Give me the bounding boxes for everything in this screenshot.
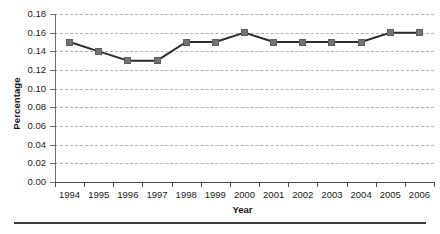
- x-axis-tick: [201, 182, 202, 187]
- y-axis-tick-label: 0.06: [2, 120, 46, 131]
- x-axis-tick-label: 2006: [399, 189, 439, 200]
- y-axis-tick-label: 0.10: [2, 83, 46, 94]
- x-axis-tick: [84, 182, 85, 187]
- x-axis-tick: [142, 182, 143, 187]
- y-axis-tick: [50, 89, 55, 90]
- data-point-marker: [299, 39, 306, 46]
- y-axis-tick-label: 0.08: [2, 101, 46, 112]
- y-axis-tick: [50, 163, 55, 164]
- y-axis-tick-label: 0.16: [2, 27, 46, 38]
- y-axis-tick: [50, 145, 55, 146]
- x-axis-tick: [434, 182, 435, 187]
- x-axis-tick: [405, 182, 406, 187]
- data-point-marker: [212, 39, 219, 46]
- data-point-marker: [270, 39, 277, 46]
- chart-figure: Percentage Year 0.000.020.040.060.080.10…: [0, 0, 440, 234]
- data-point-marker: [154, 57, 161, 64]
- x-axis-tick: [317, 182, 318, 187]
- data-point-marker: [241, 29, 248, 36]
- x-axis-tick: [288, 182, 289, 187]
- x-axis-tick: [55, 182, 56, 187]
- y-axis-tick-label: 0.02: [2, 157, 46, 168]
- y-axis-tick: [50, 70, 55, 71]
- y-axis-tick-label: 0.04: [2, 139, 46, 150]
- y-axis-tick-label: 0.14: [2, 45, 46, 56]
- y-axis-tick: [50, 51, 55, 52]
- x-axis-tick: [259, 182, 260, 187]
- x-axis-tick: [230, 182, 231, 187]
- data-point-marker: [328, 39, 335, 46]
- y-axis-tick-label: 0.18: [2, 8, 46, 19]
- y-axis-tick: [50, 126, 55, 127]
- x-axis-title: Year: [55, 204, 430, 215]
- x-axis-tick: [113, 182, 114, 187]
- y-axis-tick: [50, 14, 55, 15]
- data-point-marker: [66, 39, 73, 46]
- data-point-marker: [183, 39, 190, 46]
- data-point-marker: [95, 48, 102, 55]
- y-axis-tick-label: 0.12: [2, 64, 46, 75]
- x-axis-tick: [172, 182, 173, 187]
- y-axis-tick-label: 0.00: [2, 176, 46, 187]
- y-axis-tick: [50, 107, 55, 108]
- data-point-marker: [358, 39, 365, 46]
- footer-rule: [14, 222, 426, 224]
- x-axis-tick: [347, 182, 348, 187]
- data-point-marker: [387, 29, 394, 36]
- data-point-marker: [124, 57, 131, 64]
- x-axis-tick: [376, 182, 377, 187]
- y-axis-tick: [50, 33, 55, 34]
- data-point-marker: [416, 29, 423, 36]
